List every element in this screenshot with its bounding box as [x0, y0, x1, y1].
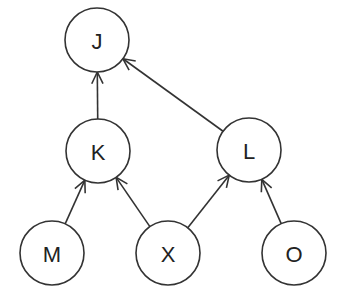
edge-o-to-l: [261, 179, 281, 223]
node-label: K: [91, 140, 106, 165]
node-label: J: [92, 29, 103, 54]
edge-m-to-k: [65, 180, 85, 224]
edge-l-to-j: [123, 59, 223, 131]
edge-x-to-k: [116, 177, 150, 226]
node-l: L: [217, 118, 281, 182]
node-x: X: [136, 221, 200, 285]
edge-k-to-j: [92, 72, 103, 119]
node-o: O: [262, 221, 326, 285]
node-m: M: [20, 221, 84, 285]
node-label: L: [243, 139, 255, 164]
graph-canvas: JKLMXO: [0, 0, 350, 301]
node-j: J: [65, 8, 129, 72]
node-label: O: [285, 242, 302, 267]
node-label: M: [43, 242, 61, 267]
edge-x-to-l: [188, 175, 229, 228]
node-label: X: [161, 242, 176, 267]
node-k: K: [66, 119, 130, 183]
